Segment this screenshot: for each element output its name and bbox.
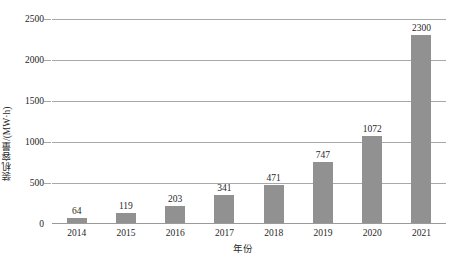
- y-tick-dash-1500: [44, 101, 51, 102]
- gridline-1500: [52, 101, 446, 102]
- bar-value-label-2018: 471: [244, 173, 304, 184]
- bar-2015[interactable]: [116, 213, 136, 223]
- bar-value-label-2019: 747: [293, 150, 353, 161]
- y-tick-label-1500: 1500: [14, 96, 44, 106]
- x-axis-title: 年份: [0, 241, 451, 255]
- y-tick-dash-2000: [44, 60, 51, 61]
- bar-2021[interactable]: [411, 35, 431, 223]
- gridline-baseline-0: [52, 223, 446, 224]
- chart-figure: 装机容量/(MW·h) 2500 2000 1500 1000 500 0 64…: [0, 0, 451, 261]
- y-tick-label-0: 0: [14, 219, 44, 229]
- y-tick-label-500: 500: [14, 178, 44, 188]
- x-axis-title-text: 年份: [233, 244, 253, 254]
- y-tick-label-1000: 1000: [14, 137, 44, 147]
- y-tick-label-2500: 2500: [14, 14, 44, 24]
- bar-2019[interactable]: [313, 162, 333, 223]
- y-tick-dash-500: [44, 183, 51, 184]
- bar-value-label-2020: 1072: [342, 124, 402, 135]
- y-tick-label-2000: 2000: [14, 55, 44, 65]
- top-edge-artifact: [4, 0, 94, 5]
- x-tick-label-2021: 2021: [391, 228, 451, 239]
- bar-value-label-2016: 203: [145, 194, 205, 205]
- bar-2016[interactable]: [165, 206, 185, 223]
- bar-2017[interactable]: [214, 195, 234, 223]
- gridline-2000: [52, 60, 446, 61]
- y-axis-title: 装机容量/(MW·h): [0, 85, 14, 203]
- y-tick-dash-2500: [44, 19, 51, 20]
- y-tick-dash-1000: [44, 142, 51, 143]
- bar-2014[interactable]: [67, 218, 87, 223]
- gridline-1000: [52, 142, 446, 143]
- bar-value-label-2021: 2300: [391, 23, 451, 34]
- gridline-2500: [52, 19, 446, 20]
- bar-2020[interactable]: [362, 136, 382, 223]
- bar-value-label-2017: 341: [194, 183, 254, 194]
- bar-2018[interactable]: [264, 185, 284, 223]
